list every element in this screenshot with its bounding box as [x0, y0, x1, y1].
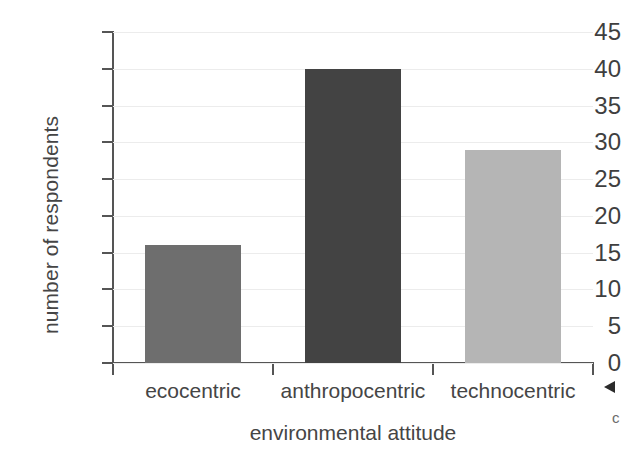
- y-axis-tick-label: 45: [529, 20, 621, 44]
- y-axis-tick: [102, 288, 113, 290]
- bar-anthropocentric: [305, 69, 401, 363]
- x-axis-tick: [112, 364, 114, 375]
- y-axis-tick: [102, 252, 113, 254]
- y-axis-tick: [102, 215, 113, 217]
- y-axis-tick-label: 5: [529, 314, 621, 338]
- margin-arrow-icon: [604, 381, 615, 393]
- y-axis-tick: [102, 31, 113, 33]
- gridline: [113, 32, 593, 33]
- y-axis-tick: [102, 141, 113, 143]
- y-axis-tick-label: 10: [529, 277, 621, 301]
- y-axis-tick-label: 20: [529, 204, 621, 228]
- x-axis-tick-label-ecocentric: ecocentric: [113, 379, 273, 403]
- x-axis-tick-label-anthropocentric: anthropocentric: [273, 379, 433, 403]
- plot-area: [113, 32, 593, 363]
- x-axis-title: environmental attitude: [113, 421, 593, 445]
- y-axis-tick: [102, 178, 113, 180]
- y-axis-tick: [102, 325, 113, 327]
- y-axis-tick: [102, 68, 113, 70]
- x-axis-tick-label-technocentric: technocentric: [433, 379, 593, 403]
- y-axis-tick-label: 15: [529, 241, 621, 265]
- y-axis-title: number of respondents: [34, 75, 68, 375]
- y-axis-tick: [102, 105, 113, 107]
- y-axis-tick-label: 35: [529, 94, 621, 118]
- y-axis-tick-label: 0: [529, 351, 621, 375]
- bar-chart-figure: number of respondents 454035302520151050…: [0, 0, 621, 472]
- x-axis-tick: [272, 364, 274, 375]
- bar-ecocentric: [145, 245, 241, 363]
- y-axis-tick-label: 25: [529, 167, 621, 191]
- y-axis-tick-label: 30: [529, 130, 621, 154]
- x-axis-tick: [592, 364, 594, 375]
- x-axis-tick: [432, 364, 434, 375]
- gridline: [113, 363, 593, 364]
- margin-mark-text: c: [612, 409, 620, 426]
- y-axis-tick-label: 40: [529, 57, 621, 81]
